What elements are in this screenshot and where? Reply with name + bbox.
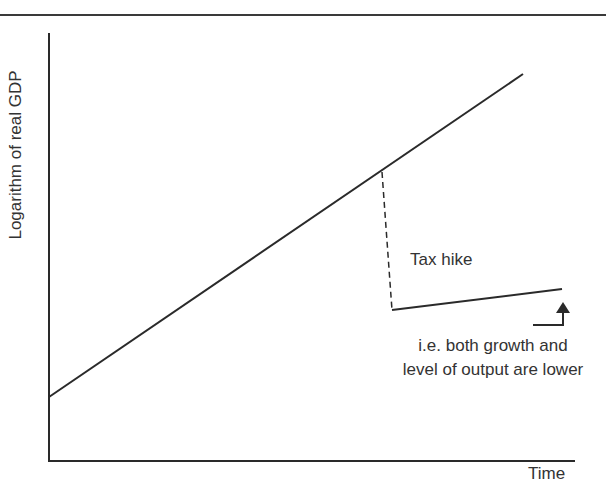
- chart-canvas: [0, 0, 606, 489]
- tax-hike-drop-dashed-line: [382, 172, 392, 310]
- y-axis-label: Logarithm of real GDP: [2, 40, 30, 270]
- x-axis-label: Time: [528, 464, 565, 484]
- note-line-1: i.e. both growth and: [380, 334, 606, 358]
- note-line-2: level of output are lower: [380, 358, 606, 382]
- tax-hike-annotation: Tax hike: [410, 250, 472, 270]
- lower-output-note: i.e. both growth and level of output are…: [380, 334, 606, 382]
- post-tax-growth-line: [392, 289, 562, 310]
- y-axis-label-text: Logarithm of real GDP: [6, 70, 26, 239]
- annotation-arrow-icon: [533, 302, 570, 325]
